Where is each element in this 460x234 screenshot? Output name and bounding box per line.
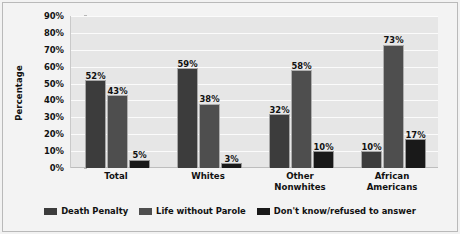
bar[interactable]: 32%: [269, 114, 290, 168]
bar[interactable]: 17%: [405, 139, 426, 168]
bar[interactable]: 43%: [107, 95, 128, 168]
y-axis-tick-label: 70%: [24, 46, 64, 54]
y-axis-tick-label: 90%: [24, 12, 64, 20]
plot-area-wrapper: 52%43%5%59%38%3%32%58%10%10%73%17%: [70, 16, 438, 168]
x-axis-category-label-line: Whites: [162, 171, 254, 182]
y-axis-tick-label: 60%: [24, 62, 64, 70]
bar-value-label: 32%: [269, 106, 289, 114]
y-axis-tick-label: 30%: [24, 113, 64, 121]
legend-swatch-icon: [44, 208, 57, 215]
x-axis-category-label-line: Total: [70, 171, 162, 182]
bar[interactable]: 59%: [177, 68, 198, 168]
bar-value-label: 17%: [405, 131, 425, 139]
x-axis-category-label: AfricanAmericans: [346, 171, 438, 193]
y-axis-tick-label: 80%: [24, 29, 64, 37]
bar[interactable]: 58%: [291, 70, 312, 168]
bar[interactable]: 73%: [383, 45, 404, 168]
y-axis-tick-labels: 90%80%70%60%50%40%30%20%10%0%: [18, 16, 64, 168]
chart-legend: Death PenaltyLife without ParoleDon't kn…: [0, 207, 460, 215]
legend-label: Death Penalty: [61, 207, 128, 215]
x-axis-category-label: Whites: [162, 171, 254, 182]
bar-value-label: 59%: [177, 60, 197, 68]
y-axis-tick-label: 40%: [24, 96, 64, 104]
legend-label: Life without Parole: [156, 207, 246, 215]
bar[interactable]: 10%: [313, 151, 334, 168]
bar-value-label: 10%: [313, 143, 333, 151]
bar-group: 10%73%17%: [347, 16, 439, 168]
y-axis-tick-label: 0%: [24, 164, 64, 172]
bar-group: 52%43%5%: [71, 16, 163, 168]
legend-item[interactable]: Life without Parole: [139, 207, 246, 215]
x-axis-category-label-line: Other: [254, 171, 346, 182]
bar[interactable]: 52%: [85, 80, 106, 168]
bar[interactable]: 3%: [221, 163, 242, 168]
bar-group: 32%58%10%: [255, 16, 347, 168]
x-axis-category-label: OtherNonwhites: [254, 171, 346, 193]
x-axis-category-labels: TotalWhitesOtherNonwhitesAfricanAmerican…: [70, 171, 438, 201]
bar-value-label: 10%: [361, 143, 381, 151]
y-axis-tick-label: 10%: [24, 147, 64, 155]
bar-value-label: 73%: [383, 36, 403, 44]
x-axis-category-label-line: Americans: [346, 182, 438, 193]
bar-value-label: 3%: [224, 155, 238, 163]
chart-screenshot: Percentage 90%80%70%60%50%40%30%20%10%0%…: [0, 0, 460, 234]
legend-label: Don't know/refused to answer: [274, 207, 416, 215]
legend-swatch-icon: [257, 208, 270, 215]
bar-value-label: 52%: [85, 72, 105, 80]
bar-value-label: 5%: [132, 151, 146, 159]
x-axis-category-label: Total: [70, 171, 162, 182]
legend-swatch-icon: [139, 208, 152, 215]
x-axis-category-label-line: African: [346, 171, 438, 182]
bar-group: 59%38%3%: [163, 16, 255, 168]
bar-value-label: 38%: [199, 95, 219, 103]
x-axis-category-label-line: Nonwhites: [254, 182, 346, 193]
bar[interactable]: 38%: [199, 104, 220, 168]
bar[interactable]: 10%: [361, 151, 382, 168]
legend-item[interactable]: Don't know/refused to answer: [257, 207, 416, 215]
bar-value-label: 58%: [291, 62, 311, 70]
legend-item[interactable]: Death Penalty: [44, 207, 128, 215]
y-axis-tick-label: 50%: [24, 79, 64, 87]
plot-area: 52%43%5%59%38%3%32%58%10%10%73%17%: [70, 16, 438, 168]
bar[interactable]: 5%: [129, 160, 150, 168]
y-axis-tick-label: 20%: [24, 130, 64, 138]
bar-value-label: 43%: [107, 87, 127, 95]
